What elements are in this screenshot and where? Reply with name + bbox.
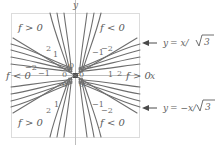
contour-label: 1 [54,100,59,109]
figure-canvas: f > 0 f < 0 f < 0 f > 0 f > 0 f < 0 2 1 … [0,0,218,145]
contour-label: 0 [79,80,84,89]
asymptote-lower-y: y [162,103,169,113]
asymptote-lower-eq: = −x/ [170,103,197,113]
contour-label: 0 [62,70,67,79]
contour-label: 0 [62,80,67,89]
contour-plot-svg: f > 0 f < 0 f < 0 f > 0 f > 0 f < 0 2 1 … [0,0,218,145]
asymptote-lower-radicand: 3 [205,102,211,112]
sign-label-mid-right: f > 0 [125,70,151,81]
contour-label: 1 [108,70,113,79]
y-axis-label: y [72,0,79,10]
asymptote-upper-radicand: 3 [204,37,210,47]
contour-label: 2 [117,69,122,78]
contour-label: 2 [46,44,51,53]
contour-label: 0 [79,70,84,79]
sign-label-bottom-left: f > 0 [17,117,43,128]
asymptote-upper-y: y [162,38,169,48]
contour-label: −2 [25,63,37,72]
contour-label: −2 [101,106,113,115]
contour-label: 2 [46,106,51,115]
contour-label: 1 [53,50,58,59]
sign-label-top-right: f < 0 [99,22,125,33]
sign-label-top-left: f > 0 [17,22,43,33]
asymptote-upper-eq: = x/ [170,38,189,48]
sign-label-bottom-right: f < 0 [99,117,125,128]
x-axis-label: x [150,71,155,81]
contour-label: 0 [69,61,74,70]
contour-label: −2 [101,44,113,53]
contour-label: −1 [38,69,50,78]
